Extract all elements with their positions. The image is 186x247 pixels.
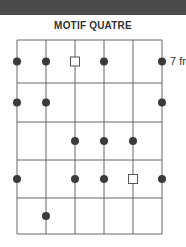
finger-dot-icon: [71, 137, 79, 145]
finger-dot-icon: [42, 99, 50, 107]
finger-dot-icon: [100, 137, 108, 145]
finger-dot-icon: [158, 58, 166, 66]
finger-dot-icon: [42, 212, 50, 220]
fretboard-diagram: [0, 0, 186, 247]
root-square-icon: [129, 175, 138, 184]
finger-dot-icon: [13, 58, 21, 66]
finger-dot-icon: [100, 175, 108, 183]
fret-position-label: 7 fr: [170, 55, 186, 67]
finger-dot-icon: [71, 175, 79, 183]
finger-dot-icon: [129, 137, 137, 145]
finger-dot-icon: [13, 175, 21, 183]
finger-dot-icon: [13, 99, 21, 107]
finger-dot-icon: [100, 58, 108, 66]
finger-dot-icon: [158, 99, 166, 107]
finger-dot-icon: [158, 175, 166, 183]
root-square-icon: [71, 57, 80, 66]
finger-dot-icon: [42, 58, 50, 66]
